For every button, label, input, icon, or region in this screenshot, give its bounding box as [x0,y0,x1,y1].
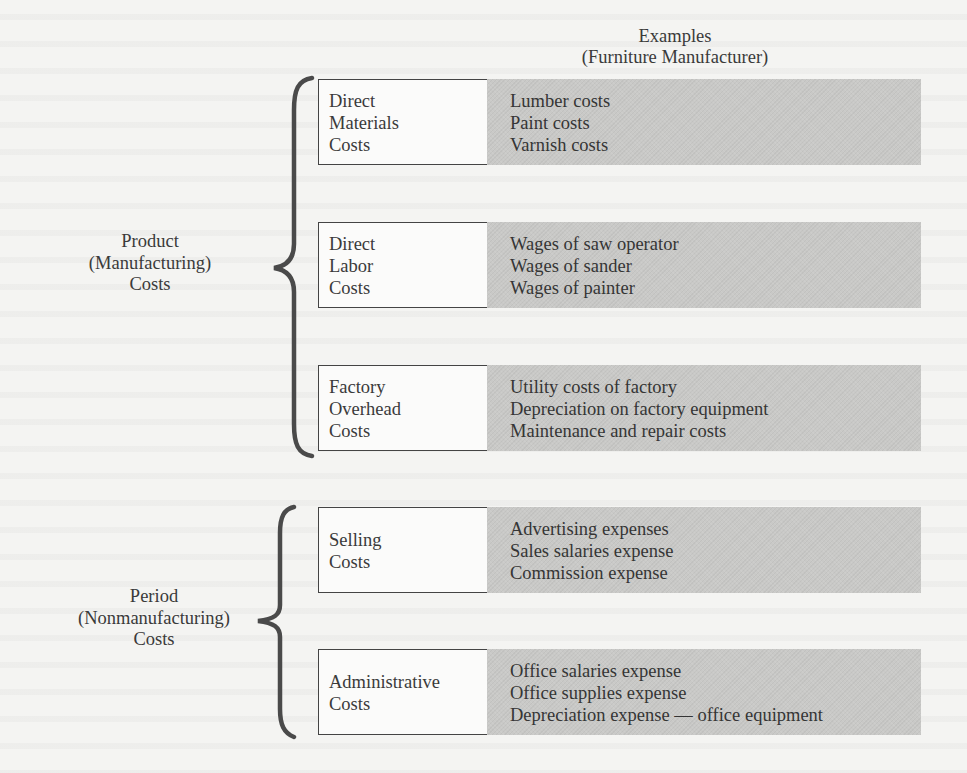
group-label-line: (Nonmanufacturing) [54,608,254,630]
examples-box: Lumber costs Paint costs Varnish costs [487,79,921,165]
category-label-line: Factory [329,376,401,398]
example-item: Wages of sander [510,255,679,277]
category-label: Direct Materials Costs [329,90,399,156]
example-item: Maintenance and repair costs [510,420,768,442]
examples-header: Examples (Furniture Manufacturer) [525,26,825,68]
category-label: Factory Overhead Costs [329,376,401,442]
example-item: Office salaries expense [510,660,823,682]
category-label-line: Selling [329,529,381,551]
group-label-line: (Manufacturing) [60,253,240,275]
example-item: Wages of saw operator [510,233,679,255]
category-label-line: Costs [329,420,401,442]
example-item: Depreciation expense — office equipment [510,704,823,726]
category-label-line: Administrative [329,671,440,693]
group-label-line: Product [60,231,240,253]
example-item: Office supplies expense [510,682,823,704]
category-box: Factory Overhead Costs [318,365,487,451]
category-label-line: Materials [329,112,399,134]
period-costs-label: Period (Nonmanufacturing) Costs [54,586,254,651]
product-costs-label: Product (Manufacturing) Costs [60,231,240,296]
example-item: Sales salaries expense [510,540,673,562]
category-label: Selling Costs [329,529,381,573]
examples-list: Advertising expenses Sales salaries expe… [510,518,673,584]
group-label-line: Costs [60,274,240,296]
example-item: Commission expense [510,562,673,584]
category-label: Direct Labor Costs [329,233,375,299]
example-item: Paint costs [510,112,610,134]
period-costs-brace-icon [252,505,302,739]
example-item: Advertising expenses [510,518,673,540]
category-label-line: Costs [329,134,399,156]
category-box: Selling Costs [318,507,487,593]
category-label-line: Costs [329,551,381,573]
example-item: Wages of painter [510,277,679,299]
category-label-line: Labor [329,255,375,277]
category-label-line: Overhead [329,398,401,420]
group-label-line: Period [54,586,254,608]
examples-list: Wages of saw operator Wages of sander Wa… [510,233,679,299]
category-box: Direct Labor Costs [318,222,487,308]
group-label-line: Costs [54,629,254,651]
category-label-line: Costs [329,693,440,715]
example-item: Lumber costs [510,90,610,112]
category-label-line: Direct [329,90,399,112]
examples-box: Utility costs of factory Depreciation on… [487,365,921,451]
examples-box: Wages of saw operator Wages of sander Wa… [487,222,921,308]
example-item: Depreciation on factory equipment [510,398,768,420]
category-label-line: Direct [329,233,375,255]
examples-list: Utility costs of factory Depreciation on… [510,376,768,442]
category-box: Administrative Costs [318,649,487,735]
examples-list: Lumber costs Paint costs Varnish costs [510,90,610,156]
examples-header-title: Examples [525,26,825,47]
product-costs-brace-icon [268,76,318,458]
category-label: Administrative Costs [329,671,440,715]
examples-header-subtitle: (Furniture Manufacturer) [525,47,825,68]
example-item: Utility costs of factory [510,376,768,398]
examples-box: Office salaries expense Office supplies … [487,649,921,735]
examples-box: Advertising expenses Sales salaries expe… [487,507,921,593]
category-box: Direct Materials Costs [318,79,487,165]
category-label-line: Costs [329,277,375,299]
example-item: Varnish costs [510,134,610,156]
examples-list: Office salaries expense Office supplies … [510,660,823,726]
